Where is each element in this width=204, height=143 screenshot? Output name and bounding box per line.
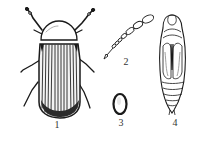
- label-4: 4: [170, 118, 180, 128]
- antenna-figure: [104, 13, 155, 59]
- label-1: 1: [52, 120, 62, 130]
- egg-figure: [114, 94, 127, 114]
- adult-beetle-figure: [21, 7, 95, 118]
- pupa-figure: [160, 15, 186, 115]
- label-2: 2: [121, 57, 131, 67]
- label-3: 3: [116, 118, 126, 128]
